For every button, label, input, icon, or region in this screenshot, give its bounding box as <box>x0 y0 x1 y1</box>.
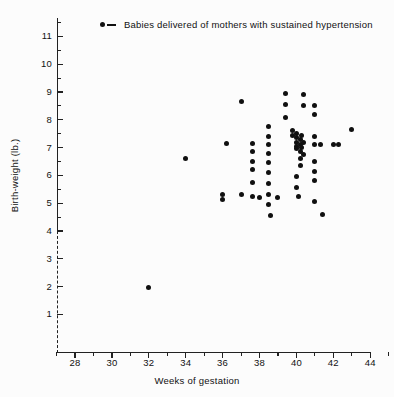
data-point <box>298 163 303 168</box>
data-point <box>312 169 317 174</box>
y-tick-1 <box>57 314 63 315</box>
y-tick-5 <box>57 203 63 204</box>
x-tick-label-42: 42 <box>321 358 345 368</box>
scatter-plot-figure: 1234567891011 283032343638404244 Babies … <box>0 0 394 397</box>
data-point <box>318 142 323 147</box>
data-point <box>299 133 304 138</box>
data-point <box>312 142 317 147</box>
data-point <box>266 151 271 156</box>
y-minor-tick <box>57 105 61 106</box>
data-point <box>320 212 325 217</box>
y-minor-tick <box>57 78 61 79</box>
data-point <box>250 149 255 154</box>
plot-area: 1234567891011 283032343638404244 <box>0 0 394 397</box>
x-tick-label-38: 38 <box>248 358 272 368</box>
x-axis-line <box>57 352 371 353</box>
x-minor-tick <box>56 352 57 356</box>
data-point <box>266 181 271 186</box>
data-point <box>266 170 271 175</box>
data-point <box>268 213 273 218</box>
data-point <box>266 202 271 207</box>
data-point <box>266 134 271 139</box>
data-point <box>294 185 299 190</box>
x-minor-tick <box>314 352 315 356</box>
data-point <box>301 103 306 108</box>
y-tick-label-9: 9 <box>47 87 52 97</box>
legend-marker-dash-icon <box>107 24 116 26</box>
data-point <box>283 102 288 107</box>
legend-marker-dot-icon <box>100 22 105 27</box>
x-minor-tick <box>204 352 205 356</box>
y-tick-2 <box>57 286 63 287</box>
y-minor-tick <box>57 161 61 162</box>
y-axis-title: Birth-weight (lb.) <box>9 116 20 236</box>
data-point <box>349 127 354 132</box>
x-minor-tick <box>351 352 352 356</box>
data-point <box>312 103 317 108</box>
data-point <box>266 124 271 129</box>
data-point <box>146 285 151 290</box>
x-minor-tick <box>167 352 168 356</box>
data-point <box>283 91 288 96</box>
y-tick-label-6: 6 <box>47 170 52 180</box>
legend-label: Babies delivered of mothers with sustain… <box>124 19 373 30</box>
x-minor-tick <box>93 352 94 356</box>
data-point <box>312 159 317 164</box>
x-minor-tick <box>130 352 131 356</box>
data-point <box>250 159 255 164</box>
x-tick-label-40: 40 <box>284 358 308 368</box>
data-point <box>239 99 244 104</box>
data-point <box>296 194 301 199</box>
y-tick-9 <box>57 91 63 92</box>
x-tick-label-34: 34 <box>174 358 198 368</box>
data-point <box>220 197 225 202</box>
data-point <box>266 142 271 147</box>
y-tick-label-4: 4 <box>47 226 52 236</box>
y-axis-break-line <box>57 231 58 353</box>
data-point <box>301 152 306 157</box>
data-point <box>298 156 303 161</box>
y-tick-7 <box>57 147 63 148</box>
data-point <box>250 167 255 172</box>
data-point <box>257 195 262 200</box>
x-tick-label-32: 32 <box>137 358 161 368</box>
data-point <box>239 192 244 197</box>
data-point <box>266 192 271 197</box>
x-tick-label-44: 44 <box>358 358 382 368</box>
y-minor-tick <box>57 217 61 218</box>
x-axis-title: Weeks of gestation <box>0 375 394 386</box>
data-point <box>250 141 255 146</box>
y-tick-label-1: 1 <box>47 309 52 319</box>
x-tick-label-28: 28 <box>63 358 87 368</box>
y-tick-label-10: 10 <box>41 59 52 69</box>
data-point <box>299 145 304 150</box>
y-tick-label-5: 5 <box>47 198 52 208</box>
x-minor-tick <box>241 352 242 356</box>
data-point <box>250 194 255 199</box>
y-tick-11 <box>57 36 63 37</box>
data-point <box>183 156 188 161</box>
y-tick-4 <box>57 230 63 231</box>
data-point <box>312 199 317 204</box>
data-point <box>312 134 317 139</box>
x-minor-tick <box>388 352 389 356</box>
data-point <box>250 180 255 185</box>
y-minor-tick <box>57 189 61 190</box>
data-point <box>294 174 299 179</box>
y-tick-label-7: 7 <box>47 143 52 153</box>
x-tick-label-30: 30 <box>100 358 124 368</box>
y-minor-tick <box>57 22 61 23</box>
y-tick-10 <box>57 64 63 65</box>
y-tick-label-11: 11 <box>42 31 52 41</box>
chart-legend: Babies delivered of mothers with sustain… <box>100 19 373 30</box>
y-minor-tick <box>57 50 61 51</box>
data-point <box>331 142 336 147</box>
x-tick-label-36: 36 <box>211 358 235 368</box>
data-point <box>301 140 306 145</box>
y-tick-3 <box>57 258 63 259</box>
data-point <box>224 141 229 146</box>
y-minor-tick <box>57 133 61 134</box>
y-tick-label-2: 2 <box>47 282 52 292</box>
data-point <box>275 195 280 200</box>
y-tick-8 <box>57 119 63 120</box>
